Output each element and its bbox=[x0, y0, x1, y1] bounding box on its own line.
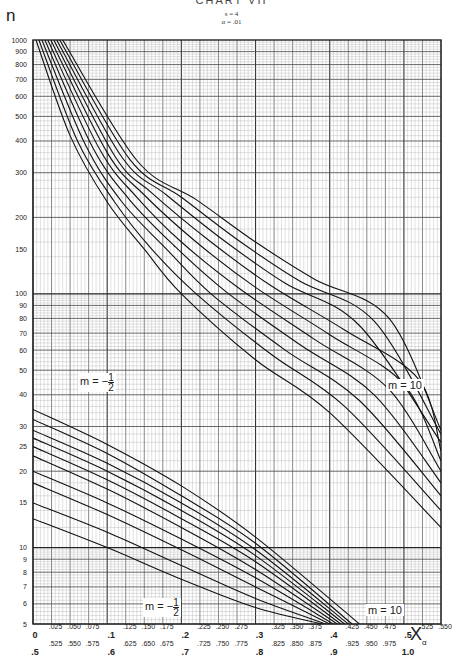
svg-text:.1: .1 bbox=[107, 630, 115, 640]
svg-text:.075: .075 bbox=[86, 623, 100, 630]
svg-text:30: 30 bbox=[19, 423, 27, 430]
curve bbox=[51, 40, 441, 461]
x-tick-labels-secondary: .5.525.550.575.6.625.650.675.7.725.750.7… bbox=[31, 640, 414, 657]
curve bbox=[42, 40, 441, 496]
svg-text:5: 5 bbox=[23, 621, 27, 628]
chart-plot: 5678910152025304050607080901001502003004… bbox=[0, 0, 463, 660]
svg-text:.675: .675 bbox=[160, 640, 174, 647]
svg-text:.050: .050 bbox=[67, 623, 81, 630]
svg-text:.350: .350 bbox=[290, 623, 304, 630]
svg-text:.875: .875 bbox=[308, 640, 322, 647]
svg-text:800: 800 bbox=[15, 61, 27, 68]
svg-text:20: 20 bbox=[19, 468, 27, 475]
svg-text:100: 100 bbox=[15, 290, 27, 297]
svg-text:90: 90 bbox=[19, 302, 27, 309]
svg-text:.550: .550 bbox=[67, 640, 81, 647]
x-axis-subscript: α bbox=[422, 638, 427, 647]
svg-text:.825: .825 bbox=[271, 640, 285, 647]
svg-text:.750: .750 bbox=[216, 640, 230, 647]
svg-text:.2: .2 bbox=[182, 630, 190, 640]
svg-text:.975: .975 bbox=[383, 640, 397, 647]
svg-text:.8: .8 bbox=[256, 647, 264, 657]
svg-text:.575: .575 bbox=[86, 640, 100, 647]
svg-text:600: 600 bbox=[15, 93, 27, 100]
svg-text:150: 150 bbox=[15, 246, 27, 253]
svg-text:.4: .4 bbox=[330, 630, 338, 640]
curve bbox=[33, 447, 341, 624]
upper-curve-family bbox=[36, 40, 441, 528]
svg-text:7: 7 bbox=[23, 583, 27, 590]
svg-text:.3: .3 bbox=[256, 630, 264, 640]
svg-text:900: 900 bbox=[15, 48, 27, 55]
svg-text:1000: 1000 bbox=[11, 37, 27, 44]
svg-text:200: 200 bbox=[15, 214, 27, 221]
svg-text:.225: .225 bbox=[197, 623, 211, 630]
svg-text:.950: .950 bbox=[364, 640, 378, 647]
x-tick-labels-primary: 0.025.050.075.1.125.150.175.2.225.250.27… bbox=[32, 623, 451, 640]
svg-text:.6: .6 bbox=[107, 647, 115, 657]
svg-text:.525: .525 bbox=[49, 640, 63, 647]
svg-text:.7: .7 bbox=[182, 647, 190, 657]
svg-text:.850: .850 bbox=[290, 640, 304, 647]
svg-text:40: 40 bbox=[19, 391, 27, 398]
svg-text:0: 0 bbox=[32, 630, 37, 640]
svg-text:700: 700 bbox=[15, 76, 27, 83]
svg-text:.650: .650 bbox=[141, 640, 155, 647]
svg-text:8: 8 bbox=[23, 569, 27, 576]
x-axis-symbol: X bbox=[410, 624, 422, 644]
x-axis-label: Xα bbox=[410, 624, 427, 647]
svg-text:10: 10 bbox=[19, 544, 27, 551]
svg-text:.275: .275 bbox=[234, 623, 248, 630]
svg-text:9: 9 bbox=[23, 556, 27, 563]
annotation-upper-m-minus-half: m = −12 bbox=[78, 373, 116, 392]
svg-text:.775: .775 bbox=[234, 640, 248, 647]
svg-text:.025: .025 bbox=[49, 623, 63, 630]
y-tick-labels: 5678910152025304050607080901001502003004… bbox=[11, 37, 27, 628]
annotation-upper-m-10: m = 10 bbox=[386, 379, 424, 391]
annotation-lower-m-minus-half: m = −12 bbox=[143, 598, 181, 617]
svg-text:70: 70 bbox=[19, 330, 27, 337]
svg-text:25: 25 bbox=[19, 443, 27, 450]
svg-text:50: 50 bbox=[19, 367, 27, 374]
svg-text:500: 500 bbox=[15, 113, 27, 120]
svg-text:.925: .925 bbox=[345, 640, 359, 647]
svg-text:15: 15 bbox=[19, 499, 27, 506]
svg-text:.375: .375 bbox=[308, 623, 322, 630]
svg-text:.175: .175 bbox=[160, 623, 174, 630]
svg-text:.425: .425 bbox=[345, 623, 359, 630]
curve bbox=[60, 40, 441, 434]
svg-text:6: 6 bbox=[23, 600, 27, 607]
svg-text:.5: .5 bbox=[31, 647, 39, 657]
annotation-lower-m-10: m = 10 bbox=[366, 604, 404, 616]
svg-text:.125: .125 bbox=[123, 623, 137, 630]
svg-text:.450: .450 bbox=[364, 623, 378, 630]
svg-text:.150: .150 bbox=[141, 623, 155, 630]
svg-text:.725: .725 bbox=[197, 640, 211, 647]
svg-text:.250: .250 bbox=[216, 623, 230, 630]
svg-text:60: 60 bbox=[19, 347, 27, 354]
svg-text:.550: .550 bbox=[438, 623, 452, 630]
svg-text:1.0: 1.0 bbox=[402, 647, 415, 657]
svg-text:.9: .9 bbox=[330, 647, 338, 657]
svg-text:.325: .325 bbox=[271, 623, 285, 630]
svg-text:.625: .625 bbox=[123, 640, 137, 647]
curve bbox=[36, 40, 441, 528]
svg-text:.475: .475 bbox=[383, 623, 397, 630]
svg-text:80: 80 bbox=[19, 315, 27, 322]
svg-text:400: 400 bbox=[15, 137, 27, 144]
svg-text:300: 300 bbox=[15, 169, 27, 176]
